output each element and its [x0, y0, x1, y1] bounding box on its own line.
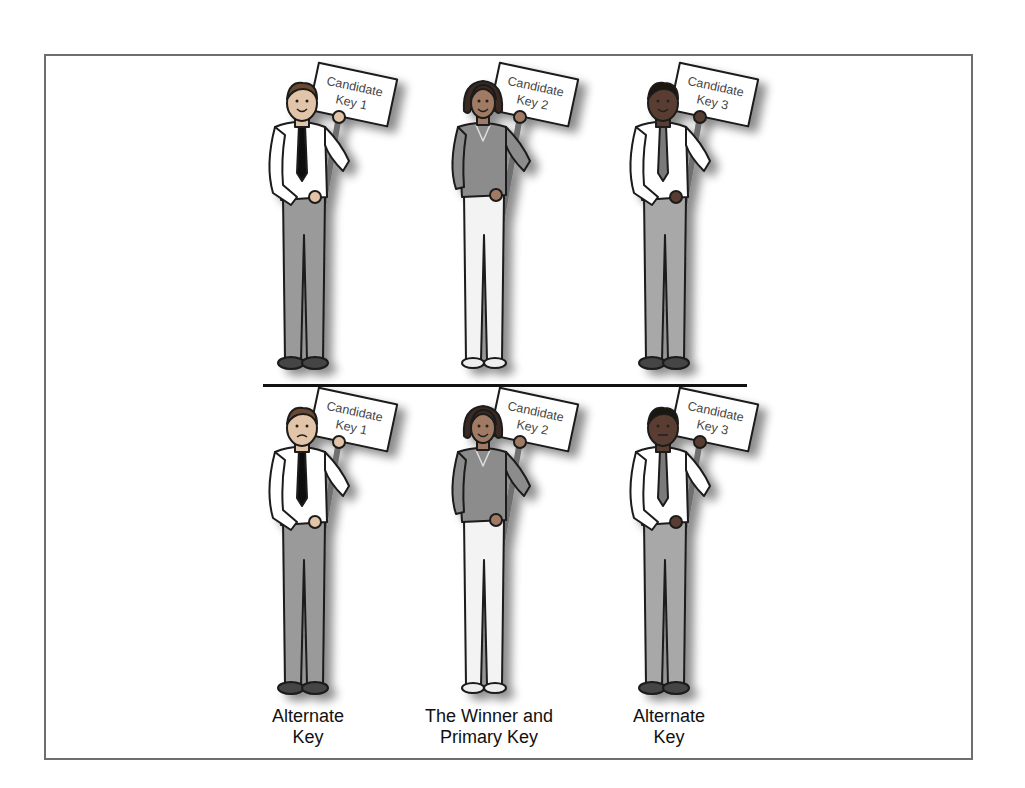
bottom-figure-1: Candidate Key 1	[255, 390, 395, 710]
caption-2: The Winner and Primary Key	[389, 706, 589, 748]
caption-line1: Alternate	[208, 706, 408, 727]
caption-line2: Primary Key	[389, 727, 589, 748]
caption-1: Alternate Key	[208, 706, 408, 748]
top-figure-2: Candidate Key 2	[436, 65, 576, 385]
caption-line2: Key	[569, 727, 769, 748]
top-figure-3: Candidate Key 3	[616, 65, 756, 385]
caption-line2: Key	[208, 727, 408, 748]
caption-3: Alternate Key	[569, 706, 769, 748]
top-figure-1: Candidate Key 1	[255, 65, 395, 385]
bottom-figure-3: Candidate Key 3	[616, 390, 756, 710]
caption-line1: Alternate	[569, 706, 769, 727]
bottom-figure-2: Candidate Key 2	[436, 390, 576, 710]
caption-line1: The Winner and	[389, 706, 589, 727]
